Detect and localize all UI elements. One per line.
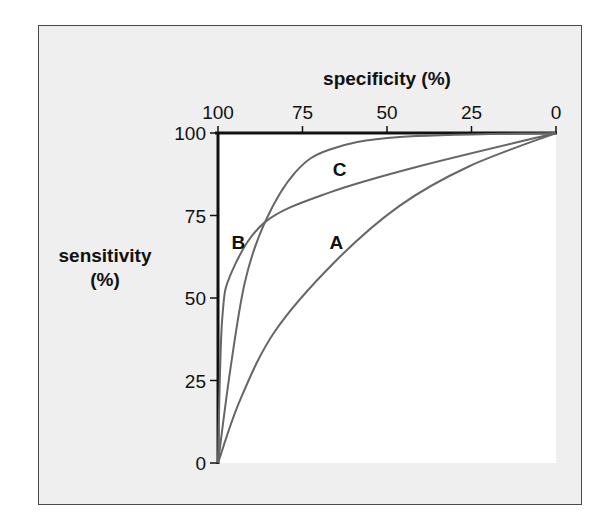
y-tick-label: 25 xyxy=(185,371,206,392)
x-tick-label: 100 xyxy=(202,102,234,123)
curve-label-a: A xyxy=(329,232,343,253)
y-tick-label: 100 xyxy=(174,123,206,144)
y-axis-title-line2: (%) xyxy=(90,269,120,290)
y-axis-title-line1: sensitivity xyxy=(59,245,152,266)
curve-label-b: B xyxy=(231,232,245,253)
x-axis-title: specificity (%) xyxy=(323,68,451,89)
roc-chart: specificity (%) sensitivity (%) 10075502… xyxy=(0,0,613,530)
y-tick-label: 75 xyxy=(185,206,206,227)
curve-label-c: C xyxy=(333,159,347,180)
x-tick-label: 0 xyxy=(551,102,562,123)
x-tick-label: 25 xyxy=(461,102,482,123)
x-tick-label: 75 xyxy=(292,102,313,123)
x-tick-label: 50 xyxy=(376,102,397,123)
plot-area xyxy=(218,133,556,463)
y-tick-label: 0 xyxy=(195,453,206,474)
y-tick-label: 50 xyxy=(185,288,206,309)
